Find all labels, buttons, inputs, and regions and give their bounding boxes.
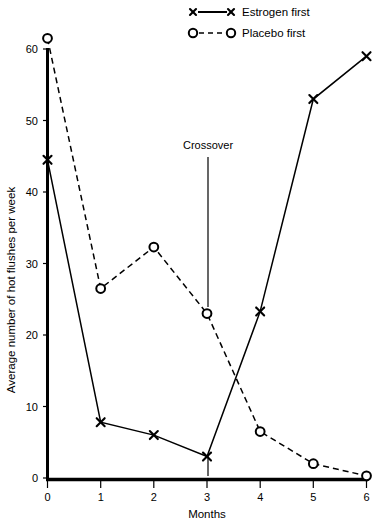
legend-label-placebo-first: Placebo first [242, 27, 306, 39]
x-axis-title: Months [188, 508, 226, 520]
y-tick-label-0: 0 [32, 472, 38, 484]
legend-marker-x-icon [190, 9, 196, 15]
y-tick-label-30: 30 [26, 258, 38, 270]
chart-container: Estrogen first Placebo first 0 10 2 [0, 0, 383, 522]
y-axis-title: Average number of hot flushes per week [5, 187, 17, 394]
marker-placebo-3 [203, 309, 212, 318]
legend-marker-o-icon [189, 29, 197, 37]
legend-entry-estrogen-first: Estrogen first [190, 6, 311, 18]
marker-placebo-4 [256, 427, 265, 436]
legend-label-estrogen-first: Estrogen first [242, 6, 311, 18]
crossover-label: Crossover [183, 139, 233, 151]
marker-placebo-0 [43, 34, 52, 43]
crossover-annotation: Crossover [183, 139, 233, 476]
y-axis-tick-labels: 0 10 20 30 40 50 60 [26, 43, 38, 484]
marker-estrogen-6 [363, 52, 371, 60]
legend-entry-placebo-first: Placebo first [189, 27, 306, 39]
chart-legend: Estrogen first Placebo first [189, 6, 311, 39]
x-tick-label-3: 3 [204, 491, 210, 503]
marker-placebo-1 [96, 284, 105, 293]
x-tick-label-4: 4 [257, 491, 263, 503]
marker-estrogen-3 [203, 453, 211, 461]
legend-marker-x-icon-end [228, 9, 234, 15]
y-tick-label-40: 40 [26, 186, 38, 198]
y-tick-label-20: 20 [26, 329, 38, 341]
marker-placebo-2 [149, 243, 158, 252]
x-tick-label-2: 2 [151, 491, 157, 503]
marker-placebo-6 [362, 471, 371, 480]
marker-placebo-5 [309, 459, 318, 468]
series-line-estrogen-first [48, 56, 367, 456]
x-tick-label-6: 6 [363, 491, 369, 503]
y-tick-label-50: 50 [26, 115, 38, 127]
series-markers-estrogen-first [44, 52, 371, 460]
x-axis-tick-labels: 0 1 2 3 4 5 6 [44, 491, 369, 503]
x-tick-label-0: 0 [44, 491, 50, 503]
x-axis-ticks [48, 481, 367, 488]
y-tick-label-60: 60 [26, 43, 38, 55]
series-markers-placebo-first [43, 34, 371, 480]
x-tick-label-1: 1 [98, 491, 104, 503]
legend-marker-o-icon-end [227, 29, 235, 37]
y-tick-label-10: 10 [26, 401, 38, 413]
x-tick-label-5: 5 [310, 491, 316, 503]
series-group [43, 34, 371, 480]
series-line-placebo-first [48, 38, 367, 476]
hot-flushes-line-chart: Estrogen first Placebo first 0 10 2 [0, 0, 383, 522]
